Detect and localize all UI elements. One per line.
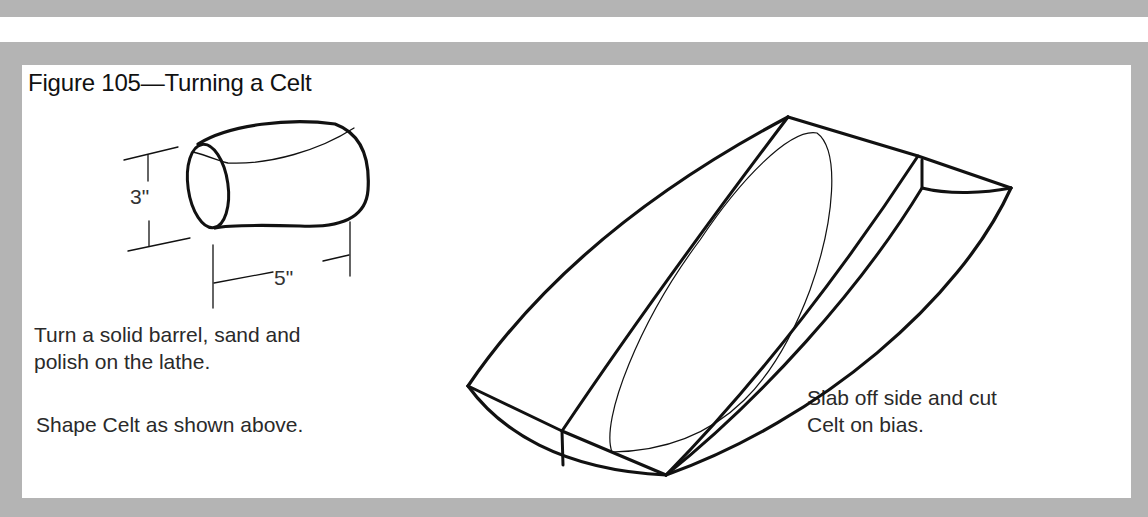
celt-illustrations: 3" 5"	[0, 0, 1148, 517]
length-dimension-label: 5"	[274, 266, 293, 289]
celt-drawing	[468, 117, 1011, 475]
height-dimension-label: 3"	[130, 185, 149, 208]
barrel-drawing	[124, 122, 368, 308]
